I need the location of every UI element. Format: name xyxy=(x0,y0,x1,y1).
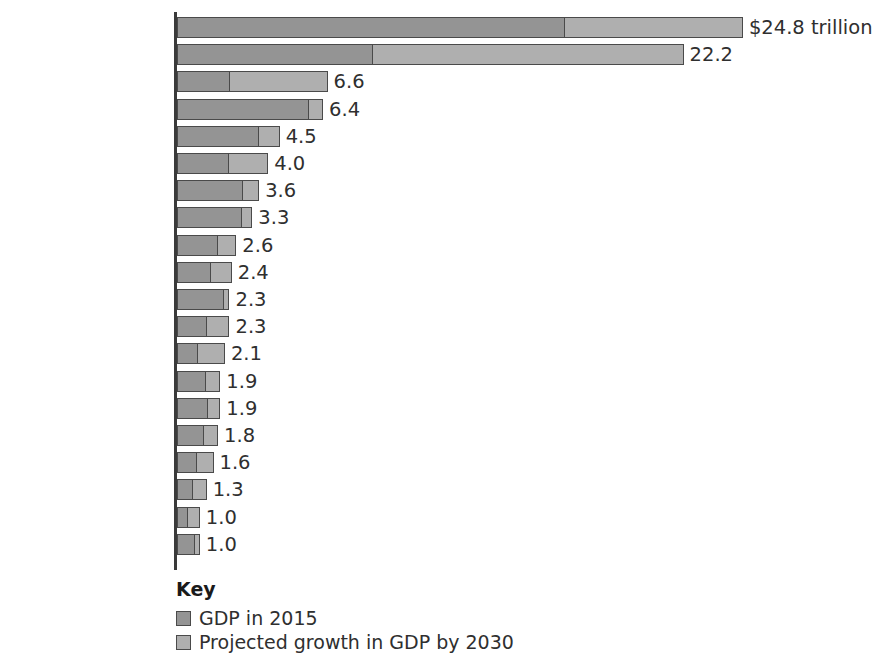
bar-segment-gdp-2015 xyxy=(178,263,211,282)
plot-area: United States$24.8 trillionChina22.2Indi… xyxy=(0,0,894,575)
bar-segment-gdp-2015 xyxy=(178,18,565,37)
bar-segment-gdp-2015 xyxy=(178,480,193,499)
bar-segment-projected-growth xyxy=(218,236,236,255)
bar-value-label: 2.3 xyxy=(235,316,266,337)
bar-value-label: 2.6 xyxy=(242,235,273,256)
stacked-bar xyxy=(177,289,229,310)
bar-segment-projected-growth xyxy=(229,154,267,173)
bar-segment-projected-growth xyxy=(230,72,327,91)
stacked-bar xyxy=(177,126,280,147)
legend-item-gdp-2015: GDP in 2015 xyxy=(176,606,776,630)
legend-swatch-icon-gdp-2015 xyxy=(176,611,191,626)
stacked-bar xyxy=(177,153,268,174)
bar-segment-projected-growth xyxy=(243,181,259,200)
bar-segment-gdp-2015 xyxy=(178,535,195,554)
stacked-bar xyxy=(177,235,236,256)
bar-value-label: 4.0 xyxy=(274,153,305,174)
stacked-bar xyxy=(177,180,259,201)
bar-value-label: 2.4 xyxy=(238,262,269,283)
stacked-bar xyxy=(177,507,200,528)
stacked-bar xyxy=(177,479,207,500)
stacked-bar xyxy=(177,71,328,92)
bar-value-label: 3.3 xyxy=(258,207,289,228)
bar-segment-projected-growth xyxy=(204,426,217,445)
stacked-bar xyxy=(177,425,218,446)
bar-value-label: $24.8 trillion xyxy=(749,17,873,38)
bar-segment-gdp-2015 xyxy=(178,508,188,527)
bar-value-label: 6.4 xyxy=(329,99,360,120)
bar-segment-projected-growth xyxy=(211,263,231,282)
bar-segment-projected-growth xyxy=(206,372,219,391)
bar-segment-projected-growth xyxy=(259,127,279,146)
bar-segment-gdp-2015 xyxy=(178,72,230,91)
bar-value-label: 2.3 xyxy=(235,289,266,310)
legend-label-projected-growth: Projected growth in GDP by 2030 xyxy=(199,631,514,653)
stacked-bar xyxy=(177,398,220,419)
bar-segment-gdp-2015 xyxy=(178,208,242,227)
bar-segment-projected-growth xyxy=(195,535,199,554)
stacked-bar xyxy=(177,262,232,283)
bar-segment-projected-growth xyxy=(198,344,224,363)
bar-value-label: 22.2 xyxy=(690,44,733,65)
stacked-bar xyxy=(177,316,229,337)
bar-segment-projected-growth xyxy=(197,453,212,472)
stacked-bar xyxy=(177,371,220,392)
legend-label-gdp-2015: GDP in 2015 xyxy=(199,607,318,629)
stacked-bar xyxy=(177,207,252,228)
bar-value-label: 1.0 xyxy=(206,534,237,555)
chart-legend: Key GDP in 2015 Projected growth in GDP … xyxy=(176,578,776,654)
legend-item-projected-growth: Projected growth in GDP by 2030 xyxy=(176,630,776,654)
stacked-bar xyxy=(177,99,323,120)
bar-segment-gdp-2015 xyxy=(178,100,309,119)
bar-segment-gdp-2015 xyxy=(178,317,207,336)
bar-segment-projected-growth xyxy=(565,18,742,37)
bar-value-label: 4.5 xyxy=(286,126,317,147)
bar-segment-gdp-2015 xyxy=(178,181,243,200)
stacked-bar xyxy=(177,343,225,364)
bar-value-label: 1.3 xyxy=(213,479,244,500)
bar-segment-projected-growth xyxy=(373,45,682,64)
bar-segment-projected-growth xyxy=(193,480,206,499)
bar-segment-gdp-2015 xyxy=(178,290,224,309)
bar-value-label: 3.6 xyxy=(265,180,296,201)
bar-segment-gdp-2015 xyxy=(178,45,373,64)
bar-segment-gdp-2015 xyxy=(178,236,218,255)
bar-value-label: 6.6 xyxy=(334,71,365,92)
stacked-bar-chart: United States$24.8 trillionChina22.2Indi… xyxy=(0,0,894,664)
bar-segment-projected-growth xyxy=(224,290,228,309)
legend-title: Key xyxy=(176,578,776,600)
bar-value-label: 1.9 xyxy=(226,398,257,419)
bar-segment-gdp-2015 xyxy=(178,127,259,146)
bar-segment-gdp-2015 xyxy=(178,399,208,418)
bar-segment-gdp-2015 xyxy=(178,453,197,472)
bar-segment-projected-growth xyxy=(207,317,229,336)
stacked-bar xyxy=(177,17,743,38)
stacked-bar xyxy=(177,452,214,473)
bar-segment-projected-growth xyxy=(242,208,251,227)
bar-segment-gdp-2015 xyxy=(178,426,204,445)
bar-value-label: 2.1 xyxy=(231,343,262,364)
bar-value-label: 1.0 xyxy=(206,507,237,528)
bar-segment-projected-growth xyxy=(309,100,323,119)
bar-segment-gdp-2015 xyxy=(178,344,198,363)
bar-value-label: 1.8 xyxy=(224,425,255,446)
bar-segment-projected-growth xyxy=(188,508,198,527)
bar-segment-gdp-2015 xyxy=(178,154,229,173)
stacked-bar xyxy=(177,44,684,65)
bar-value-label: 1.9 xyxy=(226,371,257,392)
legend-swatch-icon-projected-growth xyxy=(176,635,191,650)
bar-value-label: 1.6 xyxy=(220,452,251,473)
bar-segment-projected-growth xyxy=(208,399,219,418)
bar-segment-gdp-2015 xyxy=(178,372,206,391)
stacked-bar xyxy=(177,534,200,555)
